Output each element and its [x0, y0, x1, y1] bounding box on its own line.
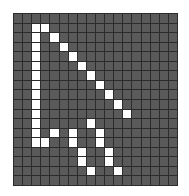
pixel-cell[interactable]	[87, 129, 95, 138]
pixel-cell[interactable]	[123, 62, 131, 71]
pixel-cell[interactable]	[132, 81, 140, 90]
pixel-cell[interactable]	[23, 52, 31, 61]
pixel-cell[interactable]	[169, 138, 177, 147]
pixel-cell[interactable]	[96, 52, 104, 61]
pixel-cell[interactable]	[132, 24, 140, 33]
pixel-cell[interactable]	[169, 176, 177, 185]
pixel-cell[interactable]	[41, 119, 49, 128]
pixel-cell[interactable]	[14, 71, 22, 80]
pixel-cell[interactable]	[160, 110, 168, 119]
pixel-cell[interactable]	[23, 100, 31, 109]
pixel-cell[interactable]	[142, 62, 150, 71]
pixel-cell[interactable]	[14, 176, 22, 185]
pixel-cell[interactable]	[123, 176, 131, 185]
pixel-cell[interactable]	[96, 71, 104, 80]
pixel-cell[interactable]	[160, 138, 168, 147]
pixel-cell[interactable]	[78, 24, 86, 33]
pixel-cell[interactable]	[123, 24, 131, 33]
pixel-cell[interactable]	[96, 24, 104, 33]
pixel-cell[interactable]	[105, 52, 113, 61]
pixel-cell[interactable]	[123, 129, 131, 138]
pixel-cell[interactable]	[151, 14, 159, 23]
pixel-cell[interactable]	[114, 62, 122, 71]
pixel-cell[interactable]	[69, 52, 77, 61]
pixel-cell[interactable]	[114, 43, 122, 52]
pixel-cell[interactable]	[69, 148, 77, 157]
pixel-cell[interactable]	[114, 100, 122, 109]
pixel-cell[interactable]	[14, 157, 22, 166]
pixel-cell[interactable]	[60, 62, 68, 71]
pixel-cell[interactable]	[96, 90, 104, 99]
pixel-cell[interactable]	[114, 138, 122, 147]
pixel-cell[interactable]	[14, 167, 22, 176]
pixel-cell[interactable]	[41, 100, 49, 109]
pixel-cell[interactable]	[160, 43, 168, 52]
pixel-cell[interactable]	[87, 52, 95, 61]
pixel-cell[interactable]	[41, 33, 49, 42]
pixel-cell[interactable]	[142, 100, 150, 109]
pixel-cell[interactable]	[60, 119, 68, 128]
pixel-cell[interactable]	[50, 138, 58, 147]
pixel-cell[interactable]	[96, 81, 104, 90]
pixel-cell[interactable]	[151, 119, 159, 128]
pixel-cell[interactable]	[41, 148, 49, 157]
pixel-cell[interactable]	[69, 81, 77, 90]
pixel-cell[interactable]	[14, 90, 22, 99]
pixel-cell[interactable]	[14, 110, 22, 119]
pixel-cell[interactable]	[132, 138, 140, 147]
pixel-cell[interactable]	[78, 119, 86, 128]
pixel-cell[interactable]	[142, 148, 150, 157]
pixel-cell[interactable]	[142, 52, 150, 61]
pixel-cell[interactable]	[132, 52, 140, 61]
pixel-cell[interactable]	[151, 71, 159, 80]
pixel-cell[interactable]	[105, 167, 113, 176]
pixel-cell[interactable]	[105, 43, 113, 52]
pixel-cell[interactable]	[123, 71, 131, 80]
pixel-cell[interactable]	[105, 81, 113, 90]
pixel-cell[interactable]	[114, 90, 122, 99]
pixel-cell[interactable]	[14, 148, 22, 157]
pixel-cell[interactable]	[87, 71, 95, 80]
pixel-cell[interactable]	[169, 167, 177, 176]
pixel-cell[interactable]	[96, 110, 104, 119]
pixel-cell[interactable]	[41, 24, 49, 33]
pixel-cell[interactable]	[87, 119, 95, 128]
pixel-cell[interactable]	[60, 157, 68, 166]
pixel-cell[interactable]	[114, 176, 122, 185]
pixel-cell[interactable]	[169, 52, 177, 61]
pixel-cell[interactable]	[142, 24, 150, 33]
pixel-cell[interactable]	[105, 71, 113, 80]
pixel-cell[interactable]	[60, 110, 68, 119]
pixel-cell[interactable]	[14, 33, 22, 42]
pixel-cell[interactable]	[151, 62, 159, 71]
pixel-cell[interactable]	[41, 157, 49, 166]
pixel-cell[interactable]	[123, 110, 131, 119]
pixel-cell[interactable]	[60, 167, 68, 176]
pixel-cell[interactable]	[169, 110, 177, 119]
pixel-cell[interactable]	[132, 100, 140, 109]
pixel-cell[interactable]	[23, 176, 31, 185]
pixel-cell[interactable]	[96, 33, 104, 42]
pixel-cell[interactable]	[69, 71, 77, 80]
pixel-cell[interactable]	[60, 129, 68, 138]
pixel-cell[interactable]	[78, 129, 86, 138]
pixel-cell[interactable]	[142, 81, 150, 90]
pixel-cell[interactable]	[114, 157, 122, 166]
pixel-cell[interactable]	[114, 24, 122, 33]
pixel-cell[interactable]	[32, 157, 40, 166]
pixel-cell[interactable]	[114, 71, 122, 80]
pixel-cell[interactable]	[50, 119, 58, 128]
pixel-cell[interactable]	[23, 138, 31, 147]
pixel-cell[interactable]	[32, 71, 40, 80]
pixel-cell[interactable]	[14, 119, 22, 128]
pixel-cell[interactable]	[96, 157, 104, 166]
pixel-cell[interactable]	[32, 24, 40, 33]
pixel-cell[interactable]	[78, 100, 86, 109]
pixel-cell[interactable]	[123, 119, 131, 128]
pixel-cell[interactable]	[151, 110, 159, 119]
pixel-cell[interactable]	[123, 157, 131, 166]
pixel-cell[interactable]	[23, 62, 31, 71]
pixel-cell[interactable]	[32, 119, 40, 128]
pixel-cell[interactable]	[60, 33, 68, 42]
pixel-cell[interactable]	[14, 138, 22, 147]
